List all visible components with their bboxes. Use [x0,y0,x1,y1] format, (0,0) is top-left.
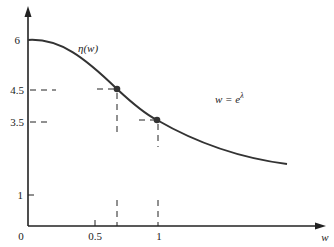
x-axis-label: w [321,231,329,243]
guide-lines [30,89,158,226]
x-axis-arrow-icon [315,223,326,230]
eta-curve [28,40,287,164]
y-tick-label: 3.5 [10,116,24,128]
y-tick-label: 6 [15,34,21,46]
x-axis [28,223,326,230]
data-point [114,86,121,93]
x-tick-label: 1 [156,230,162,242]
x-tick-label: 0.5 [88,230,102,242]
y-tick-label: 4.5 [10,84,24,96]
origin-label: 0 [18,230,24,242]
y-tick-label: 1 [18,189,24,201]
chart: 6 4.5 3.5 1 0 0.5 1 w η(w) w = eλ [0,0,334,247]
y-axis-arrow-icon [25,6,32,17]
data-point [154,117,161,124]
annotation-label: w = eλ [215,91,244,105]
curve-label: η(w) [78,42,98,55]
ticks [28,195,95,226]
